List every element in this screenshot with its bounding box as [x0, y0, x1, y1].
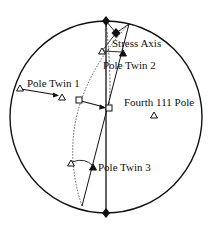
pole-twin-3-label: Pole Twin 3 [98, 161, 151, 173]
arrowhead-icon [99, 105, 106, 110]
pole-twin-3-arc [72, 160, 93, 166]
stereographic-diagram: Stress Axis Pole Twin 2 Pole Twin 1 Four… [0, 0, 211, 229]
origin-square-icon [76, 97, 82, 103]
stress-axis-label: Stress Axis [112, 37, 161, 49]
pole-twin-2-triangle-icon [120, 50, 127, 56]
pole-twin-1-triangle-icon [59, 94, 66, 100]
pole-twin-3-origin-triangle-icon [68, 160, 75, 166]
pole-twin-1-origin-triangle-icon [17, 85, 24, 91]
pole-twin-1-arrow [21, 89, 57, 95]
fourth-pole-label: Fourth 111 Pole [124, 96, 194, 108]
arrowhead-icon [53, 93, 59, 98]
target-square-icon [106, 105, 112, 111]
pole-twin-2-label: Pole Twin 2 [103, 59, 156, 71]
pole-twin-3-triangle-icon [90, 164, 97, 170]
bottom-pole-diamond-icon [102, 208, 110, 218]
fourth-pole-triangle-icon [151, 112, 158, 118]
pole-twin-1-label: Pole Twin 1 [27, 77, 80, 89]
